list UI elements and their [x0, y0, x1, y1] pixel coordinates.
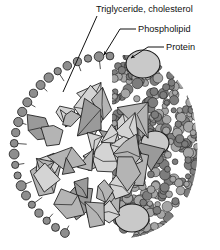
surface-bead	[118, 66, 126, 74]
surface-bead	[151, 111, 159, 119]
phospholipid-head	[84, 55, 91, 62]
surface-bead	[189, 85, 194, 90]
surface-bead	[185, 174, 190, 179]
phospholipid-head	[12, 129, 20, 137]
surface-bead	[177, 213, 184, 220]
surface-bead	[174, 57, 179, 62]
surface-bead	[194, 144, 200, 150]
surface-bead	[151, 222, 159, 230]
surface-bead	[159, 233, 167, 241]
surface-bead	[171, 108, 176, 113]
surface-bead	[178, 212, 186, 220]
surface-bead	[172, 198, 179, 205]
surface-bead	[164, 233, 169, 238]
surface-bead	[161, 229, 167, 235]
surface-bead	[174, 62, 180, 68]
surface-bead	[176, 186, 185, 195]
surface-bead	[148, 98, 158, 108]
surface-bead	[190, 130, 196, 136]
surface-bead	[162, 115, 171, 124]
label-protein: Protein	[166, 42, 195, 52]
protein-oval-bottom	[115, 204, 149, 232]
surface-bead	[162, 226, 172, 236]
phospholipid-head	[61, 229, 70, 238]
phospholipid-head	[9, 149, 19, 159]
surface-bead	[121, 89, 130, 98]
surface-bead	[160, 91, 167, 98]
phospholipid-head	[52, 223, 60, 231]
surface-bead	[150, 88, 158, 96]
lipoprotein-diagram: Triglyceride, cholesterol Phospholipid P…	[0, 0, 220, 250]
surface-bead	[191, 160, 201, 170]
surface-bead	[110, 75, 118, 83]
surface-bead	[183, 148, 193, 158]
phospholipid-head	[44, 73, 53, 82]
surface-bead	[134, 96, 140, 102]
phospholipid-head	[16, 181, 26, 191]
surface-bead	[160, 230, 166, 236]
surface-bead	[162, 52, 167, 57]
label-phospholipid: Phospholipid	[138, 24, 191, 34]
phospholipid-head	[54, 68, 61, 75]
surface-bead	[162, 235, 167, 240]
surface-bead	[144, 234, 152, 242]
surface-bead	[112, 94, 118, 100]
surface-bead	[131, 235, 140, 244]
surface-bead	[182, 141, 189, 148]
surface-bead	[185, 157, 192, 164]
surface-bead	[164, 100, 169, 105]
surface-bead	[152, 239, 161, 248]
phospholipid-head	[10, 139, 18, 147]
surface-bead	[180, 217, 186, 223]
surface-bead	[172, 58, 180, 66]
surface-bead	[160, 183, 169, 192]
surface-bead	[190, 185, 196, 191]
surface-bead	[169, 61, 175, 67]
surface-bead	[183, 79, 191, 87]
surface-bead	[184, 181, 190, 187]
surface-bead	[167, 71, 175, 79]
surface-bead	[167, 57, 175, 65]
surface-bead	[140, 232, 149, 241]
phospholipid-head	[28, 201, 35, 208]
surface-bead	[170, 96, 179, 105]
surface-bead	[173, 226, 179, 232]
phospholipid-head	[18, 107, 27, 116]
phospholipid-head	[14, 172, 21, 179]
phospholipid-head	[43, 217, 50, 224]
surface-bead	[197, 165, 204, 172]
surface-bead	[189, 197, 194, 202]
phospholipid-head	[63, 62, 72, 71]
surface-bead	[147, 186, 155, 194]
surface-bead	[192, 101, 202, 111]
surface-bead	[154, 44, 163, 53]
surface-bead	[175, 121, 182, 128]
surface-bead	[148, 171, 155, 178]
surface-bead	[177, 108, 183, 114]
surface-bead	[186, 98, 195, 107]
phospholipid-head	[36, 81, 45, 90]
phospholipid-head	[14, 117, 23, 126]
surface-bead	[172, 90, 177, 95]
leader-phospholipid	[104, 29, 136, 55]
phospholipid-head	[94, 52, 104, 62]
phospholipid-head	[35, 209, 43, 217]
crystal-facet	[54, 204, 72, 205]
surface-bead	[148, 237, 154, 243]
surface-bead	[153, 206, 161, 214]
surface-bead	[149, 238, 155, 244]
figure-canvas: Triglyceride, cholesterol Phospholipid P…	[0, 0, 220, 250]
surface-bead	[172, 159, 178, 165]
label-triglyceride-cholesterol: Triglyceride, cholesterol	[96, 4, 193, 14]
phospholipid-head	[12, 161, 19, 168]
surface-bead	[147, 201, 153, 207]
surface-bead	[192, 110, 202, 120]
surface-bead	[110, 114, 117, 121]
surface-bead	[170, 176, 176, 182]
surface-bead	[163, 84, 170, 91]
surface-bead	[162, 201, 172, 211]
phospholipid-head	[23, 98, 32, 107]
surface-bead	[132, 78, 143, 89]
surface-bead	[178, 223, 185, 230]
protein-oval-top	[126, 50, 160, 78]
